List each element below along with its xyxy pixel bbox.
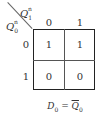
cell-r0-c1: 1	[74, 40, 86, 50]
cell-r0-c0: 1	[43, 40, 55, 50]
row-label-0: 0	[20, 40, 32, 50]
column-label-1: 1	[74, 18, 86, 28]
cell-r1-c1: 0	[74, 72, 86, 82]
equation-caption: D0 = Q0	[30, 101, 100, 113]
q0-bar: Q	[72, 101, 79, 111]
row-label-1: 1	[20, 72, 32, 82]
grid-horizontal-divider	[33, 60, 95, 61]
column-label-0: 0	[43, 18, 55, 28]
row-variable-label: Q0n	[6, 17, 18, 36]
cell-r1-c0: 0	[43, 72, 55, 82]
column-variable-label: Q1n	[20, 4, 32, 23]
